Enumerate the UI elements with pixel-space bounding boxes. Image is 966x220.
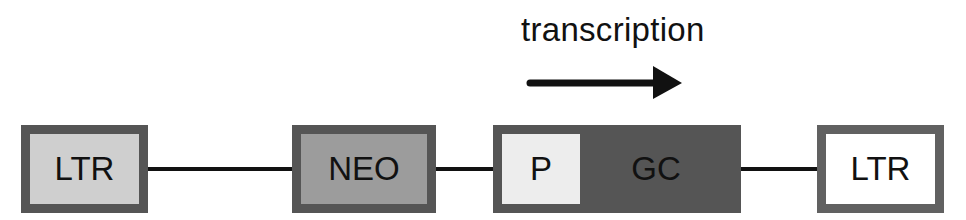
ltr-left-box: LTR (21, 125, 148, 213)
ltr-left-label: LTR (55, 150, 115, 188)
connector-line (741, 167, 817, 171)
promoter-gc-box: P GC (493, 125, 741, 213)
neo-box: NEO (292, 125, 436, 213)
transcription-arrow-icon (526, 64, 686, 100)
promoter-label: P (530, 150, 552, 188)
gc-segment: GC (580, 134, 732, 204)
connector-line (148, 167, 292, 171)
connector-line (436, 167, 493, 171)
transcription-label: transcription (521, 10, 705, 50)
ltr-right-box: LTR (817, 125, 944, 213)
promoter-segment: P (502, 134, 580, 204)
gc-label: GC (631, 150, 681, 188)
neo-label: NEO (328, 150, 400, 188)
ltr-right-label: LTR (851, 150, 911, 188)
